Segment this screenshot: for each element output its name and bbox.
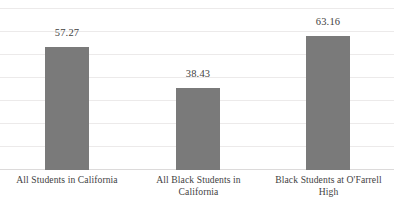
bar-value-label: 38.43 [176,68,220,79]
bar-chart: 57.27 38.43 63.16 All Students in Califo… [0,0,394,202]
bar-all-students-in-california[interactable] [45,47,89,170]
bar-all-black-students-in-california[interactable] [176,88,220,170]
category-label-black-students-at-ofarrell-high: Black Students at O'Farrell High [263,174,394,197]
category-label-all-black-students-in-california: All Black Students in California [133,174,264,197]
category-label-line: All Black Students in [133,174,264,186]
bar-value-label: 57.27 [45,27,89,38]
bar-black-students-at-ofarrell-high[interactable] [306,36,350,170]
category-label-line: California [133,186,264,198]
gridline [0,8,394,9]
category-label-line: All Students in California [0,174,134,186]
category-label-all-students-in-california: All Students in California [0,174,134,186]
category-label-line: High [263,186,394,198]
bar-value-label: 63.16 [306,16,350,27]
category-label-line: Black Students at O'Farrell [263,174,394,186]
